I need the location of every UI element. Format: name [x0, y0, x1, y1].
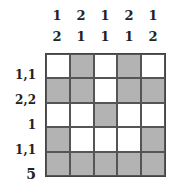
row-clue-1: 1,1	[0, 68, 36, 82]
grid-cell-r1-c3[interactable]	[94, 54, 118, 78]
col-clue-3-b: 1	[93, 29, 117, 44]
grid-cell-r5-c4[interactable]	[117, 152, 141, 176]
grid-cell-r5-c3[interactable]	[94, 152, 118, 176]
grid-cell-r2-c2[interactable]	[70, 78, 94, 102]
grid-cell-r4-c5[interactable]	[141, 127, 165, 151]
grid-cell-r2-c4[interactable]	[117, 78, 141, 102]
col-clue-4-b: 1	[117, 29, 141, 44]
row-clue-4: 1,1	[0, 143, 36, 157]
grid-cell-r3-c3[interactable]	[94, 103, 118, 127]
grid-cell-r5-c2[interactable]	[70, 152, 94, 176]
grid-cell-r5-c5[interactable]	[141, 152, 165, 176]
col-clue-5-a: 1	[141, 8, 165, 23]
col-clue-5-b: 2	[141, 29, 165, 44]
col-clue-1-b: 2	[45, 29, 69, 44]
grid-cell-r2-c3[interactable]	[94, 78, 118, 102]
grid-cell-r4-c3[interactable]	[94, 127, 118, 151]
nonogram-grid	[45, 53, 166, 177]
grid-cell-r2-c5[interactable]	[141, 78, 165, 102]
grid-cell-r3-c5[interactable]	[141, 103, 165, 127]
grid-cell-r4-c2[interactable]	[70, 127, 94, 151]
grid-cell-r3-c1[interactable]	[46, 103, 70, 127]
grid-cell-r4-c1[interactable]	[46, 127, 70, 151]
col-clue-2-b: 1	[69, 29, 93, 44]
grid-cell-r5-c1[interactable]	[46, 152, 70, 176]
grid-cell-r1-c2[interactable]	[70, 54, 94, 78]
grid-cell-r1-c5[interactable]	[141, 54, 165, 78]
row-clue-3: 1	[0, 118, 36, 132]
grid-cell-r1-c4[interactable]	[117, 54, 141, 78]
col-clue-4-a: 2	[117, 8, 141, 23]
grid-cell-r1-c1[interactable]	[46, 54, 70, 78]
row-clue-5: 5	[0, 166, 36, 182]
col-clue-1-a: 1	[45, 8, 69, 23]
grid-cell-r3-c4[interactable]	[117, 103, 141, 127]
grid-cell-r4-c4[interactable]	[117, 127, 141, 151]
grid-cell-r3-c2[interactable]	[70, 103, 94, 127]
row-clue-2: 2,2	[0, 93, 36, 107]
col-clue-3-a: 1	[93, 8, 117, 23]
col-clue-2-a: 2	[69, 8, 93, 23]
grid-cell-r2-c1[interactable]	[46, 78, 70, 102]
